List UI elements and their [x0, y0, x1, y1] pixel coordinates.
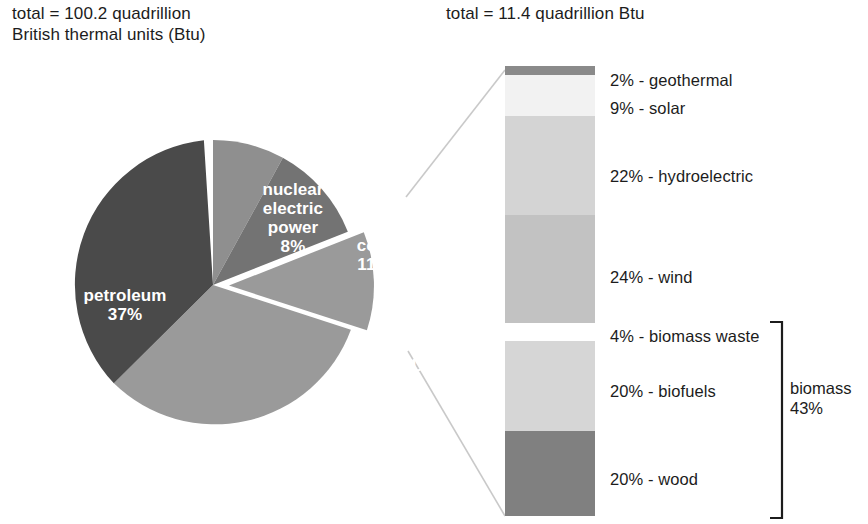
bar-label-biofuels: 20% - biofuels [610, 382, 716, 401]
energy-consumption-figure: total = 100.2 quadrillion British therma… [0, 0, 868, 524]
bar-segment-wood[interactable] [505, 431, 595, 516]
bar-label-wind: 24% - wind [610, 268, 693, 287]
bar-segment-biofuels[interactable] [505, 341, 595, 431]
bar-segment-solar[interactable] [505, 75, 595, 116]
bar-segment-biomass-waste[interactable] [505, 323, 595, 341]
bar-segment-wind[interactable] [505, 215, 595, 323]
bar-label-wood: 20% - wood [610, 470, 698, 489]
pie-svg [40, 68, 460, 518]
biomass-group-bracket [766, 320, 792, 524]
renewable-breakout-stacked-bar [505, 66, 595, 516]
bar-segment-hydroelectric[interactable] [505, 116, 595, 215]
bar-segment-geothermal[interactable] [505, 66, 595, 75]
bar-label-hydroelectric: 22% - hydroelectric [610, 167, 753, 186]
bar-label-solar: 9% - solar [610, 99, 685, 118]
bar-label-geothermal: 2% - geothermal [610, 71, 733, 90]
left-chart-title: total = 100.2 quadrillion British therma… [12, 3, 206, 45]
right-chart-title: total = 11.4 quadrillion Btu [446, 3, 645, 24]
energy-sources-pie-chart: petroleum 37% nuclear electric power 8% … [40, 68, 460, 518]
biomass-group-label: biomass 43% [790, 378, 851, 418]
bar-label-biomass-waste: 4% - biomass waste [610, 327, 759, 346]
